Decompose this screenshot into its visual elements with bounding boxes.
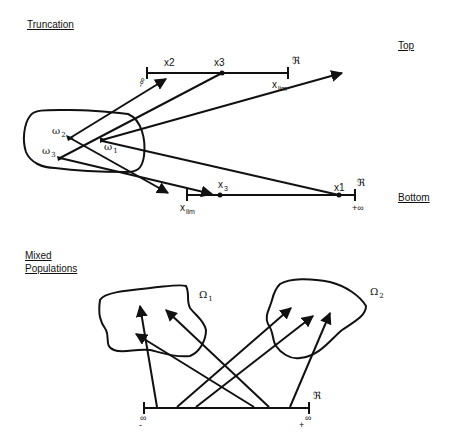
truncation-heading: Truncation [27,20,74,30]
omega3-sub: 3 [51,151,55,159]
Omega2-symbol: Ω [370,286,378,297]
Omega1-sub: 1 [208,295,212,303]
pos-infinity-bottom: +∞ [352,204,364,213]
neg-sign-mixed: - [139,421,142,430]
xlim-bottom-label: xlim [180,203,195,213]
omega3-symbol: ω [42,145,50,156]
population-blob [24,110,145,172]
omega1-symbol: ω [104,141,112,152]
xlim-main: x [272,79,277,90]
pos-sign-mixed: + [299,421,304,430]
x1-label: x1 [334,183,345,193]
bottom-axis [187,189,355,201]
top-axis [147,67,288,79]
x3b-main: x [218,179,223,190]
mixed-heading-line1: Mixed [25,251,52,261]
pos-infinity-mixed-symbol: ∞ [305,414,311,423]
omega1-label: ω1 [104,142,118,152]
mixed-rays [136,306,330,407]
real-symbol-top: ℜ [292,56,300,66]
mixed-axis [144,402,309,414]
omega2-label: ω2 [52,126,66,136]
bottom-label: Bottom [398,193,430,203]
real-symbol-mixed: ℜ [313,391,321,401]
diagram-canvas [0,0,457,436]
x2-label: x2 [164,58,175,68]
real-symbol-bottom: ℜ [357,178,365,188]
omega2-symbol: ω [52,125,60,136]
x3b-sub: 3 [224,185,228,192]
top-label: Top [398,41,414,51]
omega2-sub: 2 [61,131,65,139]
mixed-heading-line2: Populations [25,264,77,274]
omega2-population-label: Ω2 [370,287,384,297]
truncation-rays [60,73,342,195]
omega1-population-label: Ω1 [199,290,213,300]
x3-bottom-label: x3 [218,180,228,190]
xlimb-main: x [180,202,185,213]
infinity-sign: ∞ [357,203,363,213]
xlimb-sub: lim [186,208,195,215]
Omega2-sub: 2 [379,292,383,300]
xlim-sub: lim [278,85,287,92]
omega3-label: ω3 [42,146,56,156]
x3-bottom-point [218,193,223,198]
omega1-sub: 1 [113,147,117,155]
x3-label: x3 [214,58,225,68]
population-omega1-blob [99,285,206,356]
Omega1-symbol: Ω [199,289,207,300]
xlim-top-label: xlim [272,80,287,90]
